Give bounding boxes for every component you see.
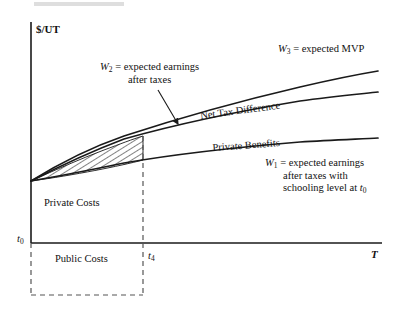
w3-symbol: W bbox=[278, 43, 287, 54]
public-costs-dashed-box bbox=[31, 243, 143, 295]
tick-t0-y-axis: t0 bbox=[17, 233, 24, 246]
label-w3: W3 = expected MVP bbox=[278, 43, 364, 56]
w2-leader-line bbox=[158, 90, 178, 124]
w1-t-subscript: 0 bbox=[363, 186, 367, 195]
tick-t0-sub: 0 bbox=[20, 237, 24, 246]
label-w2: W2 = expected earnings after taxes bbox=[100, 61, 199, 86]
y-axis-label: $/UT bbox=[36, 23, 60, 35]
w1-line2: after taxes with bbox=[265, 170, 366, 182]
w1-text-line1: = expected earnings bbox=[280, 157, 364, 168]
w3-subscript: 3 bbox=[287, 47, 291, 56]
w2-subscript: 2 bbox=[109, 65, 113, 74]
w1-symbol: W bbox=[265, 157, 274, 168]
w1-line3: schooling level at t0 bbox=[265, 182, 366, 195]
w3-text: = expected MVP bbox=[293, 43, 364, 54]
x-axis-label: T bbox=[371, 248, 378, 260]
label-w1: W1 = expected earnings after taxes with … bbox=[265, 157, 366, 196]
label-private-costs: Private Costs bbox=[44, 197, 100, 209]
w1-subscript: 1 bbox=[274, 161, 278, 170]
w2-symbol: W bbox=[100, 61, 109, 72]
tick-t4-sub: 4 bbox=[151, 254, 155, 263]
tick-t4-x-axis: t4 bbox=[148, 250, 155, 263]
w1-line1: W1 = expected earnings bbox=[265, 157, 366, 170]
label-public-costs: Public Costs bbox=[55, 253, 108, 265]
w2-line1: W2 = expected earnings bbox=[100, 61, 199, 74]
w1-text-line3: schooling level at bbox=[283, 182, 360, 193]
w2-line2: after taxes bbox=[100, 74, 199, 86]
w2-text-line1: = expected earnings bbox=[115, 61, 199, 72]
page-running-head bbox=[34, 2, 124, 6]
